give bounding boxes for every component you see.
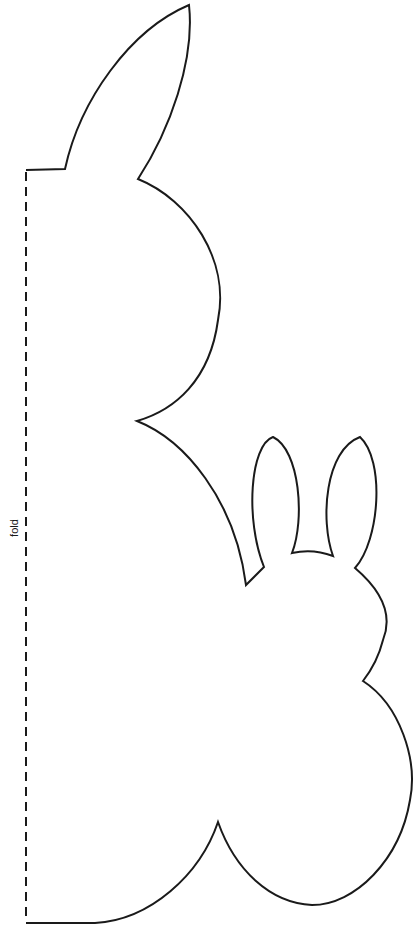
fold-label: fold: [4, 514, 24, 542]
rabbit-outline: [26, 5, 412, 923]
rabbit-template-outline: [0, 0, 414, 933]
